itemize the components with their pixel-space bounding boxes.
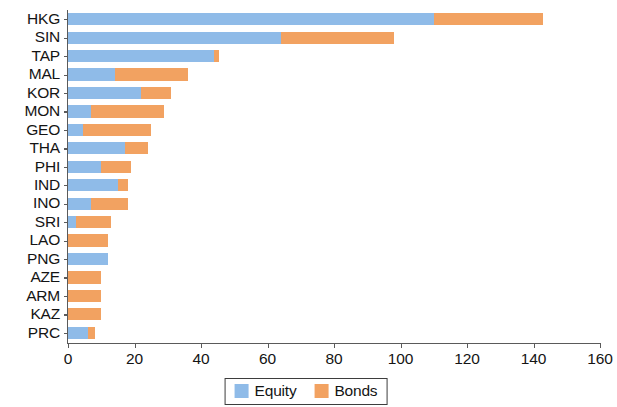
y-axis-label: PHI <box>0 158 60 176</box>
x-axis-label: 100 <box>376 350 426 368</box>
stacked-bar[interactable] <box>68 234 108 246</box>
x-axis-tick <box>401 343 402 348</box>
bar-segment-bonds <box>91 198 128 210</box>
y-axis-label: THA <box>0 139 60 157</box>
chart-bar-row: ARM <box>68 287 600 305</box>
x-axis-label: 140 <box>509 350 559 368</box>
chart-bar-row: GEO <box>68 121 600 139</box>
bar-segment-equity <box>68 161 101 173</box>
y-axis-label: AZE <box>0 268 60 286</box>
y-axis-label: SRI <box>0 213 60 231</box>
bar-segment-equity <box>68 105 91 117</box>
bar-segment-bonds <box>68 290 101 302</box>
x-axis-label: 20 <box>110 350 160 368</box>
chart-bar-row: KAZ <box>68 305 600 323</box>
bar-segment-bonds <box>68 234 108 246</box>
stacked-bar[interactable] <box>68 142 148 154</box>
stacked-bar[interactable] <box>68 161 131 173</box>
chart-bar-row: PNG <box>68 250 600 268</box>
x-axis-tick <box>268 343 269 348</box>
x-axis-label: 60 <box>243 350 293 368</box>
bar-segment-bonds <box>115 68 188 80</box>
bar-segment-bonds <box>88 327 95 339</box>
y-axis-label: ARM <box>0 287 60 305</box>
y-axis-label: INO <box>0 194 60 212</box>
x-axis-tick <box>600 343 601 348</box>
x-axis-tick <box>68 343 69 348</box>
x-axis-label: 40 <box>176 350 226 368</box>
chart-bar-row: IND <box>68 176 600 194</box>
stacked-bar[interactable] <box>68 68 188 80</box>
bar-segment-bonds <box>125 142 148 154</box>
chart-bar-row: SIN <box>68 28 600 46</box>
y-axis-label: IND <box>0 176 60 194</box>
bar-segment-bonds <box>91 105 164 117</box>
stacked-bar[interactable] <box>68 87 171 99</box>
stacked-bar[interactable] <box>68 253 108 265</box>
legend-swatch-equity <box>235 384 249 398</box>
bar-segment-equity <box>68 124 83 136</box>
bar-segment-equity <box>68 198 91 210</box>
bar-segment-bonds <box>68 271 101 283</box>
chart-bar-row: THA <box>68 139 600 157</box>
stacked-bar[interactable] <box>68 327 95 339</box>
bar-segment-bonds <box>434 13 544 25</box>
y-axis-label: LAO <box>0 231 60 249</box>
stacked-bar[interactable] <box>68 105 164 117</box>
chart-bar-row: PRC <box>68 324 600 342</box>
y-axis-label: MON <box>0 102 60 120</box>
x-axis-tick <box>467 343 468 348</box>
bar-segment-equity <box>68 253 108 265</box>
bar-segment-equity <box>68 179 118 191</box>
legend-item-bonds[interactable]: Bonds <box>314 382 377 400</box>
bar-segment-bonds <box>214 50 219 62</box>
x-axis-tick <box>135 343 136 348</box>
chart-bar-row: LAO <box>68 231 600 249</box>
legend-label-equity: Equity <box>255 382 297 400</box>
bar-segment-bonds <box>76 216 111 228</box>
stacked-bar[interactable] <box>68 50 219 62</box>
stacked-bar[interactable] <box>68 179 128 191</box>
stacked-bar[interactable] <box>68 32 394 44</box>
chart-bar-row: INO <box>68 194 600 212</box>
chart-legend: Equity Bonds <box>225 378 388 405</box>
bar-segment-bonds <box>141 87 171 99</box>
y-axis-label: TAP <box>0 47 60 65</box>
x-axis-label: 0 <box>43 350 93 368</box>
plot-area: HKGSINTAPMALKORMONGEOTHAPHIINDINOSRILAOP… <box>68 10 600 342</box>
legend-swatch-bonds <box>314 384 328 398</box>
chart-bar-row: HKG <box>68 10 600 28</box>
stacked-bar[interactable] <box>68 290 101 302</box>
y-axis-label: PRC <box>0 324 60 342</box>
stacked-bar[interactable] <box>68 308 101 320</box>
chart-bar-row: MAL <box>68 65 600 83</box>
legend-item-equity[interactable]: Equity <box>235 382 297 400</box>
stacked-bar[interactable] <box>68 271 101 283</box>
bar-segment-equity <box>68 142 125 154</box>
x-axis-label: 120 <box>442 350 492 368</box>
y-axis-label: SIN <box>0 28 60 46</box>
y-axis-label: HKG <box>0 10 60 28</box>
y-axis-label: MAL <box>0 65 60 83</box>
y-axis-label: PNG <box>0 250 60 268</box>
bar-segment-equity <box>68 13 434 25</box>
chart-bar-row: TAP <box>68 47 600 65</box>
y-axis-label: GEO <box>0 121 60 139</box>
stacked-bar[interactable] <box>68 198 128 210</box>
bar-segment-equity <box>68 50 214 62</box>
stacked-bar[interactable] <box>68 124 151 136</box>
chart-bar-row: SRI <box>68 213 600 231</box>
bar-segment-equity <box>68 32 281 44</box>
bar-segment-equity <box>68 87 141 99</box>
x-axis-label: 80 <box>309 350 359 368</box>
y-axis-label: KOR <box>0 84 60 102</box>
stacked-bar[interactable] <box>68 13 543 25</box>
bar-segment-bonds <box>281 32 394 44</box>
x-axis-label: 160 <box>575 350 617 368</box>
y-axis-label: KAZ <box>0 305 60 323</box>
x-axis-tick <box>201 343 202 348</box>
stacked-bar[interactable] <box>68 216 111 228</box>
bar-segment-equity <box>68 68 115 80</box>
bar-segment-equity <box>68 216 76 228</box>
bar-segment-bonds <box>68 308 101 320</box>
